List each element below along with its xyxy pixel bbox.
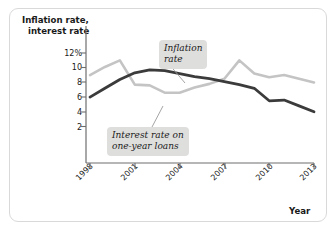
interest-callout-line2: one-year loans <box>112 141 184 152</box>
plot-area <box>0 0 336 232</box>
chart-figure: Inflation rate, interest rate Year 12% 1… <box>0 0 336 232</box>
y-axis-ticks <box>81 53 86 127</box>
inflation-callout-line2: rate <box>164 54 202 65</box>
x-axis-ticks <box>90 163 314 169</box>
interest-callout-leader-line <box>152 106 163 127</box>
interest-callout-line1: Interest rate on <box>112 130 184 141</box>
inflation-callout: Inflation rate <box>159 40 207 69</box>
inflation-callout-line1: Inflation <box>164 43 202 54</box>
interest-callout: Interest rate on one-year loans <box>107 127 189 156</box>
